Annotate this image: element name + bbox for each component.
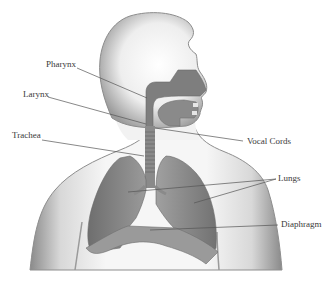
- label-pharynx: Pharynx: [46, 59, 76, 69]
- label-trachea: Trachea: [12, 130, 41, 140]
- trachea: [145, 126, 155, 188]
- respiratory-system-diagram: Pharynx Larynx Trachea Vocal Cords Lungs…: [0, 0, 332, 285]
- label-larynx: Larynx: [23, 89, 49, 99]
- label-lungs: Lungs: [278, 173, 301, 183]
- label-diaphragm: Diaphragm: [281, 219, 322, 229]
- label-vocal-cords: Vocal Cords: [247, 136, 291, 146]
